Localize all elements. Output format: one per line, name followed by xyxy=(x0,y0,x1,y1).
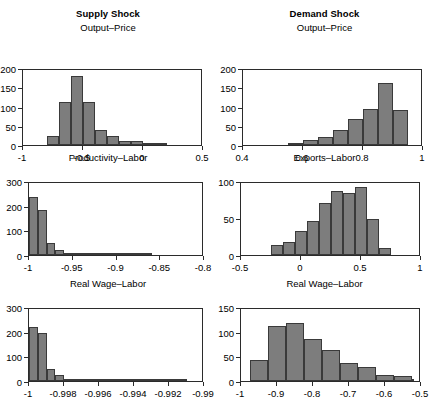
y-tick-mark xyxy=(18,69,22,70)
x-tick-mark xyxy=(202,146,203,150)
x-tick-label: -0.5 xyxy=(232,262,248,273)
histogram-bar xyxy=(47,369,56,381)
histogram-bar xyxy=(108,253,117,255)
x-tick-mark xyxy=(360,256,361,260)
x-tick-mark xyxy=(276,382,277,386)
histogram-bar xyxy=(38,210,47,255)
histogram-bar xyxy=(73,379,82,381)
y-tick-label: 100 xyxy=(0,226,22,237)
histogram-bar xyxy=(134,253,143,255)
y-tick-label: 100 xyxy=(216,327,234,338)
histogram-bar xyxy=(307,221,319,255)
histogram-bar xyxy=(271,245,283,255)
histogram-bar xyxy=(288,143,303,145)
panel-title: Output–Price xyxy=(216,22,433,33)
y-tick-label: 200 xyxy=(0,327,22,338)
x-tick-mark xyxy=(98,382,99,386)
histogram-bar xyxy=(169,379,178,381)
panel-title: Productivity–Labor xyxy=(0,152,216,163)
y-tick-label: 150 xyxy=(216,83,236,94)
histogram-bar xyxy=(119,141,131,145)
y-tick-mark xyxy=(238,108,242,109)
histogram-bar xyxy=(143,253,152,255)
panel-supply-real-wage-labor: Real Wage–Labor0100200300-1-0.998-0.996-… xyxy=(0,278,216,396)
x-tick-mark xyxy=(348,382,349,386)
histogram-bar xyxy=(379,248,391,255)
histogram-bar xyxy=(394,376,412,381)
x-tick-label: -0.5 xyxy=(412,388,428,397)
x-tick-mark xyxy=(300,256,301,260)
histogram-bar xyxy=(322,350,340,381)
y-tick-mark xyxy=(236,357,240,358)
histogram-bar xyxy=(268,326,286,381)
panel-supply-output-price: Output–Price050100150200-1-0.500.5 xyxy=(0,22,216,140)
histogram-bar xyxy=(143,143,155,145)
histogram-bar xyxy=(107,136,119,145)
histogram-bar xyxy=(47,136,59,145)
panel-supply-productivity-labor: Productivity–Labor0100200300-1-0.95-0.9-… xyxy=(0,152,216,270)
histogram-bar xyxy=(73,253,82,255)
histogram-bar xyxy=(348,119,363,145)
histogram-bar xyxy=(29,197,38,255)
x-tick-mark xyxy=(82,146,83,150)
x-tick-mark xyxy=(203,382,204,386)
x-tick-label: -0.9 xyxy=(107,262,123,273)
x-tick-mark xyxy=(142,146,143,150)
y-tick-label: 0 xyxy=(0,251,22,262)
bar-series xyxy=(29,309,202,381)
y-tick-mark xyxy=(24,308,28,309)
x-tick-label: -0.8 xyxy=(195,262,211,273)
y-tick-label: 50 xyxy=(216,214,234,225)
y-tick-mark xyxy=(24,231,28,232)
x-tick-mark xyxy=(312,382,313,386)
x-tick-mark xyxy=(72,256,73,260)
panel-title: Output–Price xyxy=(0,22,216,33)
histogram-bar xyxy=(95,130,107,145)
panel-title: Real Wage–Labor xyxy=(0,278,216,289)
histogram-bar xyxy=(393,110,408,145)
x-tick-mark xyxy=(422,146,423,150)
x-tick-mark xyxy=(63,382,64,386)
y-tick-mark xyxy=(236,219,240,220)
histogram-bar xyxy=(333,130,348,145)
x-tick-label: -1 xyxy=(236,388,244,397)
histogram-bar xyxy=(108,379,117,381)
x-tick-label: -0.85 xyxy=(148,262,170,273)
histogram-bar xyxy=(304,339,322,381)
x-tick-label: -0.996 xyxy=(85,388,112,397)
histogram-bar xyxy=(83,102,95,146)
y-tick-label: 150 xyxy=(216,303,234,314)
y-tick-mark xyxy=(238,69,242,70)
y-tick-mark xyxy=(238,127,242,128)
x-tick-mark xyxy=(240,382,241,386)
histogram-bar xyxy=(412,379,414,381)
y-tick-label: 0 xyxy=(216,251,234,262)
plot-area xyxy=(28,308,203,382)
x-tick-mark xyxy=(116,256,117,260)
histogram-bar xyxy=(38,333,47,381)
histogram-bar xyxy=(64,253,73,255)
histogram-bar xyxy=(378,83,393,145)
y-tick-mark xyxy=(18,88,22,89)
y-tick-label: 50 xyxy=(216,121,236,132)
x-tick-mark xyxy=(420,256,421,260)
histogram-bar xyxy=(55,250,64,255)
y-tick-mark xyxy=(24,357,28,358)
x-tick-mark xyxy=(302,146,303,150)
histogram-bar xyxy=(82,379,91,381)
histogram-bar xyxy=(355,187,367,255)
x-tick-label: -0.9 xyxy=(268,388,284,397)
y-tick-label: 100 xyxy=(216,177,234,188)
histogram-bar xyxy=(286,323,304,381)
histogram-bar xyxy=(55,375,64,381)
y-tick-mark xyxy=(24,333,28,334)
x-tick-mark xyxy=(28,256,29,260)
x-tick-mark xyxy=(133,382,134,386)
column-title-supply-shock: Supply Shock xyxy=(0,8,216,19)
panel-title: Real Wage–Labor xyxy=(216,278,433,289)
y-tick-label: 0 xyxy=(0,377,22,388)
histogram-bar xyxy=(134,379,143,381)
y-tick-mark xyxy=(24,182,28,183)
y-tick-label: 200 xyxy=(0,201,22,212)
x-tick-mark xyxy=(420,382,421,386)
